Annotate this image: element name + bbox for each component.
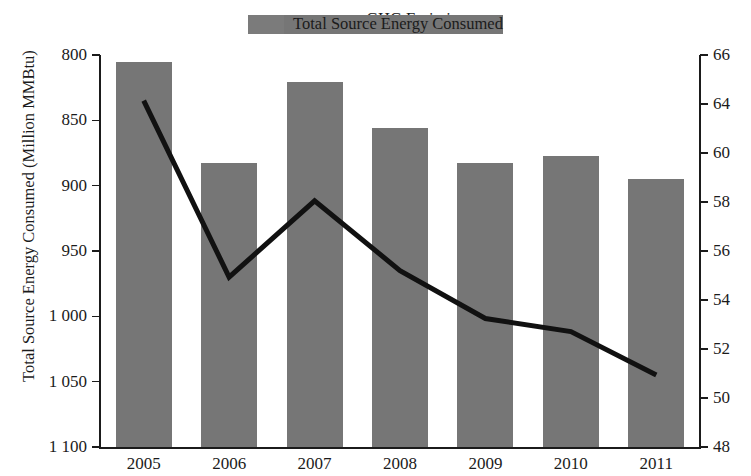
legend-label-total-source-energy-consumed: Total Source Energy Consumed bbox=[293, 16, 503, 33]
x-axis-tick-label-2011: 2011 bbox=[616, 455, 696, 472]
y-axis-left-tick-label: 800 bbox=[0, 46, 87, 63]
bar-swatch-icon bbox=[248, 15, 284, 34]
y-axis-right-tick bbox=[700, 103, 708, 105]
y-axis-right-tick-label: 56 bbox=[713, 242, 751, 259]
y-axis-left-tick-label: 1 050 bbox=[0, 373, 87, 390]
y-axis-left-tick bbox=[92, 185, 100, 187]
y-axis-left-tick bbox=[92, 316, 100, 318]
y-axis-left-tick bbox=[92, 250, 100, 252]
y-axis-left-tick-label: 1 000 bbox=[0, 307, 87, 324]
x-axis-tick-label-2010: 2010 bbox=[531, 455, 611, 472]
y-axis-right-tick bbox=[700, 201, 708, 203]
y-axis-right-tick-label: 60 bbox=[713, 144, 751, 161]
y-axis-right-tick-label: 52 bbox=[713, 340, 751, 357]
y-axis-right-tick bbox=[700, 397, 708, 399]
y-axis-right-tick-label: 50 bbox=[713, 389, 751, 406]
y-axis-right-tick bbox=[700, 446, 708, 448]
y-axis-left-tick bbox=[92, 446, 100, 448]
y-axis-right-tick bbox=[700, 54, 708, 56]
y-axis-right-tick bbox=[700, 348, 708, 350]
x-axis-tick-label-2009: 2009 bbox=[445, 455, 525, 472]
y-axis-right-tick bbox=[700, 152, 708, 154]
y-axis-right-tick-label: 66 bbox=[713, 46, 751, 63]
y-axis-left-tick-label: 850 bbox=[0, 111, 87, 128]
y-axis-left-tick bbox=[92, 381, 100, 383]
x-axis-tick-label-2005: 2005 bbox=[104, 455, 184, 472]
y-axis-left-tick-label: 900 bbox=[0, 177, 87, 194]
x-axis-tick-label-2006: 2006 bbox=[189, 455, 269, 472]
y-axis-left-title: Total Source Energy Consumed (Million MM… bbox=[19, 1, 39, 431]
y-axis-right-tick-label: 64 bbox=[713, 95, 751, 112]
y-axis-left-tick bbox=[92, 54, 100, 56]
x-axis-tick-label-2008: 2008 bbox=[360, 455, 440, 472]
y-axis-right-tick-label: 48 bbox=[713, 438, 751, 455]
chart-legend: Total Source Energy Consumed GHG Emissio… bbox=[0, 4, 751, 34]
x-axis-line bbox=[99, 447, 701, 449]
ghg-emissions-polyline bbox=[144, 101, 657, 375]
y-axis-right-tick bbox=[700, 250, 708, 252]
legend-item-total-source-energy-consumed: Total Source Energy Consumed bbox=[248, 15, 503, 34]
y-axis-right-tick-label: 54 bbox=[713, 291, 751, 308]
line-series-ghg-emissions bbox=[101, 55, 699, 447]
y-axis-right-tick bbox=[700, 299, 708, 301]
chart-container: Total Source Energy Consumed GHG Emissio… bbox=[0, 0, 751, 476]
y-axis-left-tick-label: 1 100 bbox=[0, 438, 87, 455]
plot-area: 1 1001 0501 000950900850800 666460585654… bbox=[101, 55, 699, 447]
y-axis-left-tick-label: 950 bbox=[0, 242, 87, 259]
y-axis-right-tick-label: 58 bbox=[713, 193, 751, 210]
y-axis-left-tick bbox=[92, 120, 100, 122]
x-axis-tick-label-2007: 2007 bbox=[275, 455, 355, 472]
